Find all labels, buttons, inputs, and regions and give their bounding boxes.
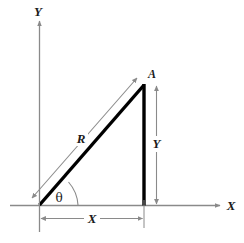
- resultant-dimension: R: [32, 78, 137, 198]
- y-component-label: Y: [153, 136, 162, 151]
- resultant-magnitude-label: R: [76, 131, 86, 146]
- vector-triangle: [40, 84, 145, 206]
- vertical-component-dimension: Y: [149, 86, 164, 204]
- vector-diagram-canvas: R θ Y X Y X A: [0, 0, 244, 243]
- y-axis-label: Y: [34, 4, 43, 19]
- theta-arc: [69, 182, 79, 205]
- x-component-label: X: [87, 211, 97, 226]
- vector-diagram-figure: R θ Y X Y X A: [0, 0, 244, 243]
- resultant-vector-line: [40, 85, 145, 205]
- x-axis-label: X: [226, 198, 236, 213]
- angle-theta-label: θ: [55, 191, 62, 205]
- point-a-label: A: [147, 67, 156, 81]
